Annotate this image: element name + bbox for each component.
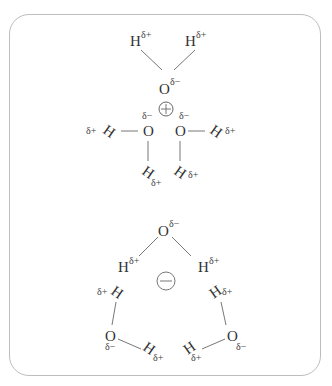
o-atom: O xyxy=(175,123,186,139)
h-atom: H xyxy=(185,33,196,49)
cation-cluster: H δ+ H δ+ O δ− δ− δ− δ+ H O H δ+ O H δ+ … xyxy=(86,29,236,188)
h-atom: H xyxy=(130,33,141,49)
h-atom: H xyxy=(108,283,126,302)
partial-positive-label: δ+ xyxy=(188,169,199,180)
partial-negative-label: δ− xyxy=(169,218,180,229)
o-atom: O xyxy=(143,123,154,139)
o-atom: O xyxy=(158,223,169,239)
hydration-diagram: H δ+ H δ+ O δ− δ− δ− δ+ H O H δ+ O H δ+ … xyxy=(0,0,332,386)
h-atom: H xyxy=(118,259,129,275)
partial-positive-label: δ+ xyxy=(153,352,164,363)
partial-positive-label: δ+ xyxy=(151,177,162,188)
partial-negative-label: δ− xyxy=(170,76,181,87)
h-atom: H xyxy=(100,122,118,141)
partial-positive-label: δ+ xyxy=(196,29,207,40)
h-atom: H xyxy=(198,259,209,275)
partial-positive-label: δ+ xyxy=(97,286,108,297)
partial-positive-label: δ+ xyxy=(225,125,236,136)
anion-cluster: O δ− H δ+ H δ+ δ+ H O δ− H δ+ H δ+ O δ− … xyxy=(97,218,247,363)
partial-positive-label: δ+ xyxy=(86,125,97,136)
o-atom: O xyxy=(159,81,170,97)
partial-positive-label: δ+ xyxy=(129,255,140,266)
partial-negative-label: δ− xyxy=(142,110,153,121)
partial-negative-label: δ− xyxy=(105,341,116,352)
partial-positive-label: δ+ xyxy=(141,29,152,40)
partial-negative-label: δ− xyxy=(236,341,247,352)
partial-positive-label: δ+ xyxy=(191,352,202,363)
h-atom: H xyxy=(171,163,189,182)
partial-positive-label: δ+ xyxy=(209,255,220,266)
partial-positive-label: δ+ xyxy=(222,286,233,297)
partial-negative-label: δ− xyxy=(179,110,190,121)
h-atom: H xyxy=(207,122,225,141)
